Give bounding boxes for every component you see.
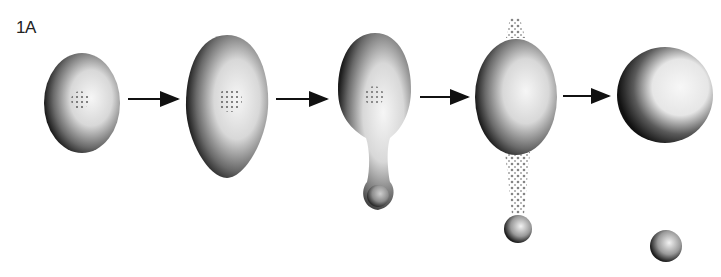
- nucleus-icon: [71, 91, 89, 109]
- cell-sequence-diagram: [0, 0, 721, 277]
- stage-1-cell: [44, 53, 120, 153]
- stage-5-cell: [617, 47, 713, 262]
- nucleus-icon: [218, 88, 242, 112]
- small-sphere: [650, 230, 682, 262]
- stage-3-cell: [338, 33, 411, 210]
- bud-sphere: [504, 215, 532, 243]
- nucleus-icon: [364, 86, 384, 106]
- stage-4-cell: [475, 18, 557, 243]
- stage-2-cell: [186, 35, 268, 178]
